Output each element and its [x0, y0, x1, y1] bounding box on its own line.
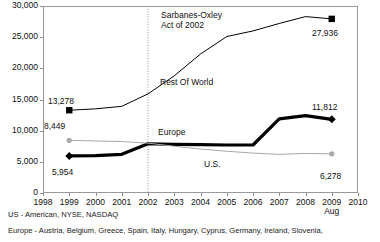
data-label-us-start: 8,449 [44, 122, 65, 131]
marker-europe-end [328, 115, 336, 123]
footnotes: US - American, NYSE, NASDAQ Europe - Aus… [0, 205, 380, 242]
series-line-europe [69, 116, 332, 156]
footnote-europe: Europe - Austria, Belgium, Greece, Spain… [8, 226, 323, 235]
series-line-rest-of-world [69, 17, 332, 111]
annotation-sarbanes-oxley-line1: Sarbanes-Oxley [161, 10, 222, 20]
series-line-u-s [69, 140, 332, 154]
chart-area: 05,00010,00015,00020,00025,00030,000 199… [0, 0, 380, 205]
data-label-row-end: 27,936 [312, 29, 338, 38]
data-label-row-start: 13,278 [48, 97, 74, 106]
marker-europe-start [65, 152, 73, 160]
series-label-us: U.S. [204, 160, 221, 169]
marker-rest-of-world-end [329, 16, 335, 22]
chart-screenshot: 05,00010,00015,00020,00025,00030,000 199… [0, 0, 380, 242]
data-label-europe-end: 11,812 [312, 103, 337, 112]
series-label-europe: Europe [158, 128, 185, 137]
marker-u-s-start [67, 138, 72, 143]
annotation-sarbanes-oxley-line2: Act of 2002 [161, 20, 204, 30]
marker-u-s-end [329, 151, 334, 156]
data-label-us-end: 6,278 [320, 172, 341, 181]
marker-rest-of-world-start [66, 107, 72, 113]
data-label-europe-start: 5,954 [52, 168, 73, 177]
footnote-us: US - American, NYSE, NASDAQ [8, 210, 118, 219]
series-label-rest-of-world: Rest Of World [160, 78, 213, 87]
